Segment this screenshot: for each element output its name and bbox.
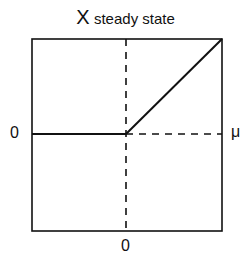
solid-rising-branch (126, 39, 222, 134)
x-origin-label: 0 (121, 237, 130, 255)
y-origin-label: 0 (10, 124, 19, 142)
mu-axis-label: μ (231, 123, 240, 141)
bifurcation-plot (0, 0, 251, 265)
